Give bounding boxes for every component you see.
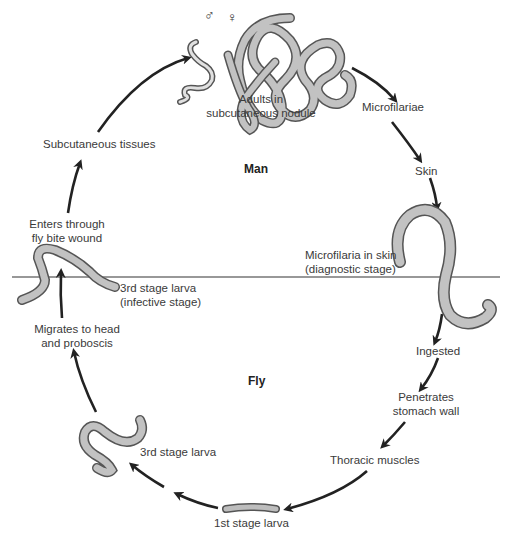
arrow-to-adults	[98, 58, 188, 132]
label-migrates: Migrates to head and proboscis	[22, 322, 132, 350]
arrow-to-skin	[392, 122, 420, 160]
label-infective-larva: 3rd stage larva (infective stage)	[120, 281, 201, 309]
arrow-to-first-larva	[287, 471, 367, 509]
label-first-stage-larva: 1st stage larva	[214, 516, 289, 530]
arrow-migrates-up	[61, 272, 62, 318]
label-adults: Adults in subcutaneous nodule	[186, 92, 336, 120]
label-microfilaria-in-skin: Microfilaria in skin (diagnostic stage)	[305, 248, 396, 276]
arrow-to-head	[74, 352, 96, 412]
label-skin: Skin	[415, 164, 437, 178]
female-symbol: ♀	[227, 9, 238, 25]
label-microfilariae: Microfilariae	[362, 100, 424, 114]
label-enters: Enters through fly bite wound	[22, 217, 112, 245]
zone-label-man: Man	[244, 162, 268, 176]
label-thoracic-muscles: Thoracic muscles	[330, 453, 419, 467]
third-stage-larva-worm	[84, 420, 142, 472]
label-ingested: Ingested	[416, 344, 460, 358]
male-symbol: ♂	[204, 7, 215, 23]
arrow-to-microfilariae	[352, 68, 395, 100]
arrow-to-penetrates	[421, 358, 438, 389]
arrow-to-mf-in-skin	[430, 178, 437, 208]
microfilaria-worm	[398, 210, 491, 323]
first-stage-larva-worm	[226, 507, 276, 509]
arrow-to-third-larva	[132, 465, 164, 487]
label-third-stage-larva: 3rd stage larva	[140, 445, 216, 459]
label-penetrates: Penetrates stomach wall	[376, 390, 476, 418]
infective-larva-worm	[22, 249, 115, 300]
arrow-from-first-larva	[177, 494, 218, 508]
arrow-to-subcut	[68, 163, 80, 213]
life-cycle-diagram: ♂ ♀	[0, 0, 510, 537]
arrow-to-thoracic	[383, 422, 405, 446]
zone-label-fly: Fly	[248, 374, 265, 388]
arrow-to-ingested	[435, 314, 442, 342]
label-subcutaneous-tissues: Subcutaneous tissues	[43, 137, 156, 151]
